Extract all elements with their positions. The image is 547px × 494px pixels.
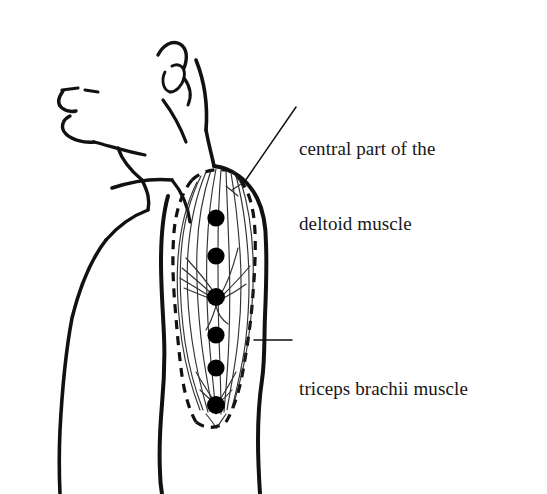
illustration-page: central part of the deltoid muscle trice…	[0, 0, 547, 494]
stimulation-point	[207, 396, 225, 414]
stimulation-point	[207, 209, 224, 226]
stimulation-point	[207, 288, 225, 306]
stimulation-point	[207, 326, 224, 343]
brow-line-inner	[85, 90, 98, 92]
label-deltoid-muscle: central part of the deltoid muscle	[299, 86, 435, 286]
label-triceps-line1: triceps brachii muscle	[299, 376, 468, 401]
stimulation-point	[207, 247, 224, 264]
stimulation-point	[207, 359, 224, 376]
brow-line	[62, 88, 78, 90]
label-triceps-muscle: triceps brachii muscle	[299, 326, 468, 451]
label-deltoid-line1: central part of the	[299, 136, 435, 161]
label-deltoid-line2: deltoid muscle	[299, 211, 435, 236]
